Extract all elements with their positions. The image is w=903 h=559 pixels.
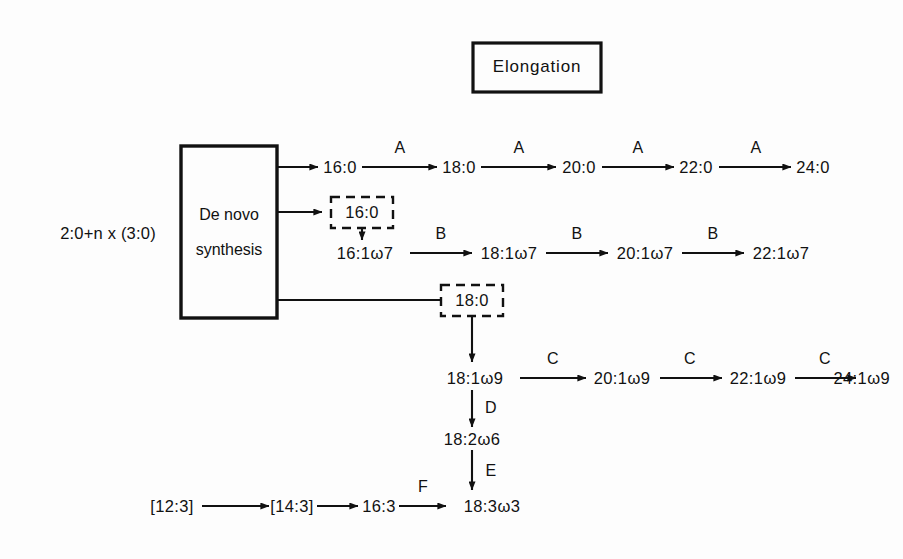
node-20-1w7: 20:1ω7: [617, 244, 674, 263]
node-22-1w9: 22:1ω9: [730, 369, 787, 388]
elongation-title: Elongation: [493, 57, 581, 77]
dashed-box-16-0-label: 16:0: [345, 203, 379, 222]
node-18-3w3: 18:3ω3: [464, 497, 521, 516]
enzyme-label-e: E: [485, 462, 496, 480]
enzyme-label-b-2: B: [571, 225, 582, 243]
node-12-3: [12:3]: [150, 497, 194, 516]
node-22-1w7: 22:1ω7: [753, 244, 810, 263]
enzyme-label-d: D: [485, 399, 497, 417]
diagram-lines: [0, 0, 903, 559]
node-16-1w7: 16:1ω7: [337, 244, 394, 263]
enzyme-label-c-2: C: [684, 350, 696, 368]
node-18-1w9: 18:1ω9: [447, 369, 504, 388]
node-20-0: 20:0: [562, 158, 596, 177]
node-20-1w9: 20:1ω9: [594, 369, 651, 388]
node-14-3: [14:3]: [270, 497, 314, 516]
node-18-2w6: 18:2ω6: [444, 430, 501, 449]
enzyme-label-b-3: B: [707, 225, 718, 243]
node-18-1w7: 18:1ω7: [481, 244, 538, 263]
enzyme-label-c-3: C: [819, 350, 831, 368]
node-22-0: 22:0: [679, 158, 713, 177]
node-16-0: 16:0: [323, 158, 357, 177]
enzyme-label-a-2: A: [513, 139, 524, 157]
enzyme-label-b-1: B: [435, 225, 446, 243]
node-18-0: 18:0: [442, 158, 476, 177]
enzyme-label-c-1: C: [547, 350, 559, 368]
dashed-box-18-0-label: 18:0: [455, 291, 489, 310]
node-24-1w9: 24:1ω9: [833, 369, 890, 388]
source-substrate-label: 2:0+n x (3:0): [60, 224, 156, 243]
node-16-3: 16:3: [362, 497, 396, 516]
enzyme-label-a-4: A: [750, 139, 761, 157]
enzyme-label-a-3: A: [632, 139, 643, 157]
diagram-canvas: Elongation 2:0+n x (3:0) De novo synthes…: [0, 0, 903, 559]
node-24-0: 24:0: [796, 158, 830, 177]
enzyme-label-f: F: [418, 478, 428, 496]
de-novo-box-outline: [181, 146, 277, 318]
enzyme-label-a-1: A: [394, 139, 405, 157]
